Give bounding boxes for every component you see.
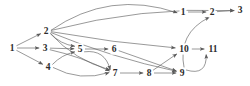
graph-edge bbox=[84, 52, 110, 70]
graph-edge bbox=[16, 50, 42, 64]
graph-node-n1: 1 bbox=[10, 43, 15, 53]
graph-edge bbox=[186, 54, 206, 71]
graph-node-n5: 5 bbox=[78, 44, 83, 54]
graph-diagram: 1234567891011123 bbox=[0, 0, 250, 86]
graph-edge bbox=[16, 34, 40, 46]
graph-edge bbox=[53, 67, 109, 76]
graph-node-n9: 9 bbox=[180, 68, 185, 78]
graph-node-n3: 3 bbox=[43, 43, 48, 53]
graph-node-n2: 2 bbox=[44, 26, 49, 36]
graph-edge bbox=[52, 52, 75, 65]
graph-node-n10: 10 bbox=[179, 44, 189, 54]
graph-edge bbox=[51, 10, 234, 30]
graph-node-n4: 4 bbox=[46, 62, 51, 72]
graph-node-t2: 2 bbox=[210, 7, 215, 17]
graph-edge bbox=[153, 54, 177, 70]
graph-edge bbox=[50, 48, 74, 49]
graph-node-t1: 1 bbox=[181, 7, 186, 17]
graph-node-n6: 6 bbox=[112, 44, 117, 54]
graph-node-n7: 7 bbox=[113, 68, 118, 78]
graph-node-t3: 3 bbox=[238, 5, 243, 15]
graph-node-n11: 11 bbox=[209, 44, 218, 54]
graph-node-n8: 8 bbox=[147, 68, 152, 78]
graph-canvas: 1234567891011123 bbox=[0, 0, 250, 86]
